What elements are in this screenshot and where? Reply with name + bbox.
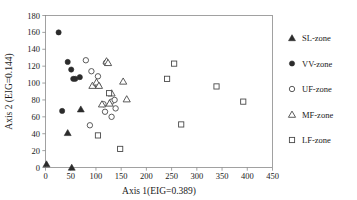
data-point — [172, 61, 177, 66]
x-tick-label: 450 — [266, 171, 279, 181]
data-point — [106, 91, 111, 96]
data-point — [120, 78, 127, 84]
data-point — [83, 58, 88, 63]
legend-item-uf-zone[interactable]: UF-zone — [289, 84, 332, 94]
data-point — [164, 76, 169, 81]
x-tick-label: 0 — [43, 171, 47, 181]
legend-item-sl-zone[interactable]: SL-zone — [289, 33, 331, 43]
data-point — [95, 133, 100, 138]
x-tick-label: 50 — [66, 171, 75, 181]
x-tick-label: 250 — [165, 171, 178, 181]
legend-item-vv-zone[interactable]: VV-zone — [289, 59, 332, 69]
legend-marker-open-triangle — [288, 111, 295, 117]
y-tick-label: 0 — [36, 163, 40, 173]
y-tick-label: 180 — [27, 11, 40, 21]
legend-marker-filled-triangle — [289, 35, 296, 41]
data-point — [64, 130, 71, 136]
y-tick-label: 20 — [32, 146, 41, 156]
x-axis-title: Axis 1(EIG=0.389) — [122, 186, 196, 197]
y-tick-label: 80 — [32, 95, 41, 105]
legend-marker-filled-circle — [289, 61, 294, 66]
x-tick-label: 400 — [241, 171, 254, 181]
legend-item-lf-zone[interactable]: LF-zone — [289, 135, 331, 145]
y-tick-label: 140 — [27, 44, 40, 54]
series-sl-zone — [43, 106, 84, 170]
y-tick-label: 60 — [32, 112, 41, 122]
legend-label-lf-zone: LF-zone — [302, 135, 331, 145]
x-tick-label: 350 — [216, 171, 229, 181]
data-point — [89, 69, 94, 74]
legend-label-vv-zone: VV-zone — [302, 59, 333, 69]
series-mf-zone — [89, 58, 130, 107]
data-point — [56, 30, 61, 35]
legend-label-sl-zone: SL-zone — [302, 33, 331, 43]
data-point — [87, 123, 92, 128]
plot-frame — [46, 16, 273, 168]
data-point — [112, 97, 117, 102]
y-axis-title: Axis 2 (EIG=0.144) — [4, 53, 15, 129]
data-point — [69, 67, 74, 72]
data-point — [179, 122, 184, 127]
data-point — [123, 96, 130, 102]
x-tick-label: 300 — [190, 171, 203, 181]
y-tick-label: 120 — [27, 61, 40, 71]
y-tick-label: 100 — [27, 78, 40, 88]
data-point — [241, 99, 246, 104]
data-point — [77, 106, 84, 112]
chart-canvas: 0501001502002503003504004500204060801001… — [0, 0, 357, 200]
legend-marker-open-square — [289, 137, 294, 142]
legend-label-mf-zone: MF-zone — [302, 110, 333, 120]
legend-marker-open-circle — [289, 86, 294, 91]
y-tick-label: 40 — [32, 129, 41, 139]
data-point — [77, 75, 82, 80]
data-point — [102, 109, 107, 114]
data-point — [95, 74, 100, 79]
y-tick-label: 160 — [27, 27, 40, 37]
data-point — [118, 146, 123, 151]
series-vv-zone — [56, 30, 82, 114]
data-point — [60, 108, 65, 113]
data-point — [214, 84, 219, 89]
x-tick-label: 100 — [90, 171, 103, 181]
x-tick-label: 150 — [115, 171, 128, 181]
scatter-plot-figure: 0501001502002503003504004500204060801001… — [0, 0, 357, 200]
data-point — [65, 59, 70, 64]
x-tick-label: 200 — [140, 171, 153, 181]
data-point — [43, 161, 50, 167]
legend-label-uf-zone: UF-zone — [302, 84, 332, 94]
legend-item-mf-zone[interactable]: MF-zone — [288, 110, 333, 120]
data-point — [109, 114, 114, 119]
